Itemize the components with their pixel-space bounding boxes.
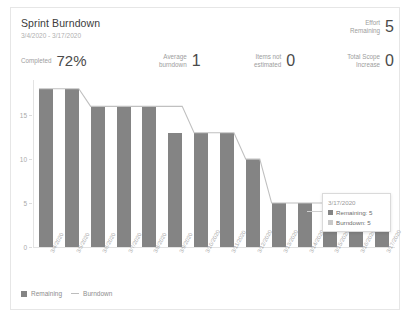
widget-header: Sprint Burndown 3/4/2020 - 3/17/2020 Com… [11, 8, 401, 78]
metric-average-burndown: Average burndown 1 [159, 52, 201, 69]
metric-average-burndown-value: 1 [192, 52, 201, 69]
metric-average-burndown-label-line2: burndown [159, 61, 187, 69]
legend-label-remaining: Remaining [31, 290, 62, 297]
legend-item-remaining[interactable]: Remaining [21, 290, 62, 297]
metric-total-scope-increase: Total Scope Increase 0 [347, 52, 394, 69]
metric-total-scope-increase-label-line2: Increase [347, 61, 380, 69]
metric-total-scope-increase-value: 0 [385, 52, 394, 69]
tooltip-date: 3/17/2020 [328, 198, 385, 207]
metric-effort-remaining-label: Effort Remaining [350, 19, 380, 35]
tooltip-text-remaining: Remaining: 5 [336, 208, 372, 217]
tooltip-leader-line [307, 211, 322, 212]
burndown-polyline [39, 89, 389, 203]
x-axis-labels: 3/4/20203/5/20203/6/20203/7/20203/8/2020… [11, 251, 401, 289]
tooltip-swatch-burndown [328, 220, 333, 225]
title-block: Sprint Burndown 3/4/2020 - 3/17/2020 [21, 17, 100, 41]
metric-items-not-estimated-label: Items not estimated [254, 53, 281, 69]
legend-swatch-remaining [21, 291, 27, 297]
metric-items-not-estimated-label-line1: Items not [255, 53, 281, 60]
metric-total-scope-increase-label-line1: Total Scope [347, 53, 380, 60]
metric-effort-remaining-label-line2: Remaining [350, 27, 380, 35]
metric-effort-remaining: Effort Remaining 5 [350, 18, 394, 35]
metric-completed-value: 72% [56, 52, 86, 69]
metric-completed: Completed 72% [21, 52, 86, 69]
metric-items-not-estimated-value: 0 [286, 52, 295, 69]
metric-total-scope-increase-label: Total Scope Increase [347, 53, 380, 69]
legend-line-burndown [71, 293, 79, 294]
tooltip-row-remaining: Remaining: 5 [328, 208, 385, 217]
metric-completed-label-line1: Completed [21, 57, 51, 64]
metric-effort-remaining-value: 5 [385, 18, 394, 35]
metric-completed-label: Completed [21, 57, 51, 65]
page-title: Sprint Burndown [21, 17, 100, 30]
metric-items-not-estimated-label-line2: estimated [254, 61, 281, 69]
chart-legend: Remaining Burndown [21, 290, 121, 297]
sprint-date-range: 3/4/2020 - 3/17/2020 [21, 31, 100, 41]
legend-item-burndown[interactable]: Burndown [71, 290, 112, 297]
metric-average-burndown-label: Average burndown [159, 53, 187, 69]
tooltip-text-burndown: Burndown: 5 [336, 218, 371, 227]
legend-label-burndown: Burndown [83, 290, 112, 297]
metric-average-burndown-label-line1: Average [163, 53, 186, 60]
metric-effort-remaining-label-line1: Effort [365, 19, 380, 26]
chart-tooltip: 3/17/2020 Remaining: 5 Burndown: 5 [322, 193, 391, 232]
tooltip-row-burndown: Burndown: 5 [328, 218, 385, 227]
metric-items-not-estimated: Items not estimated 0 [254, 52, 295, 69]
tooltip-swatch-remaining [328, 210, 333, 215]
sprint-burndown-card: Sprint Burndown 3/4/2020 - 3/17/2020 Com… [10, 7, 400, 310]
